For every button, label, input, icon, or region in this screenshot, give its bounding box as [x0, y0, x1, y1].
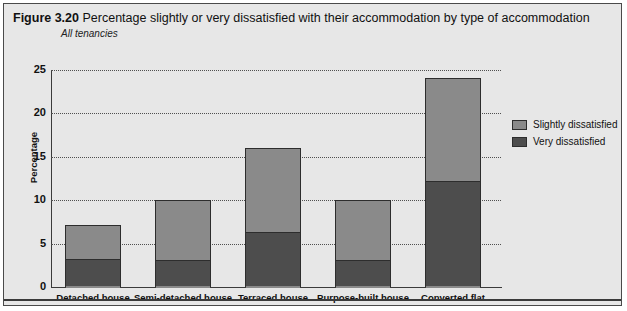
legend-swatch-icon — [512, 120, 527, 130]
y-tick-0: 0 — [20, 280, 46, 292]
legend-label: Slightly dissatisfied — [533, 119, 617, 130]
y-tick-20: 20 — [20, 106, 46, 118]
figure-number: Figure 3.20 — [13, 11, 79, 25]
legend-label: Very dissatisfied — [533, 136, 605, 147]
legend: Slightly dissatisfied Very dissatisfied — [512, 117, 617, 151]
figure-panel: Figure 3.20 Percentage slightly or very … — [3, 3, 622, 306]
bar-stack[interactable] — [65, 225, 121, 287]
plot-area — [51, 70, 501, 287]
legend-item-very-dissatisfied[interactable]: Very dissatisfied — [512, 134, 617, 149]
segment-very-dissatisfied[interactable] — [246, 232, 300, 286]
bottom-rule — [4, 299, 621, 301]
title-block: Figure 3.20 Percentage slightly or very … — [13, 11, 613, 39]
segment-very-dissatisfied[interactable] — [156, 260, 210, 286]
legend-swatch-icon — [512, 137, 527, 147]
x-label-terraced-house: Terraced house — [238, 292, 308, 303]
x-label-converted-flat: Converted flat — [421, 292, 485, 303]
y-tick-5: 5 — [20, 237, 46, 249]
y-tick-15: 15 — [20, 150, 46, 162]
y-tick-25: 25 — [20, 63, 46, 75]
segment-very-dissatisfied[interactable] — [66, 259, 120, 286]
figure-title-line: Figure 3.20 Percentage slightly or very … — [13, 11, 613, 26]
bar-stack[interactable] — [425, 78, 481, 287]
y-axis-ticks: 25 20 15 10 5 0 — [16, 70, 46, 287]
gridline-25 — [51, 70, 501, 71]
bar-stack[interactable] — [335, 200, 391, 287]
legend-item-slightly-dissatisfied[interactable]: Slightly dissatisfied — [512, 117, 617, 132]
figure-subtitle: All tenancies — [61, 28, 613, 39]
segment-very-dissatisfied[interactable] — [426, 181, 480, 286]
x-label-purpose-built-house: Purpose-built house — [317, 292, 409, 303]
page-title: Percentage slightly or very dissatisfied… — [82, 11, 589, 25]
x-label-semi-detached-house: Semi-detached house — [134, 292, 232, 303]
bar-stack[interactable] — [245, 148, 301, 287]
bar-stack[interactable] — [155, 200, 211, 287]
y-tick-10: 10 — [20, 193, 46, 205]
x-label-detached-house: Detached house — [56, 292, 129, 303]
segment-very-dissatisfied[interactable] — [336, 260, 390, 286]
